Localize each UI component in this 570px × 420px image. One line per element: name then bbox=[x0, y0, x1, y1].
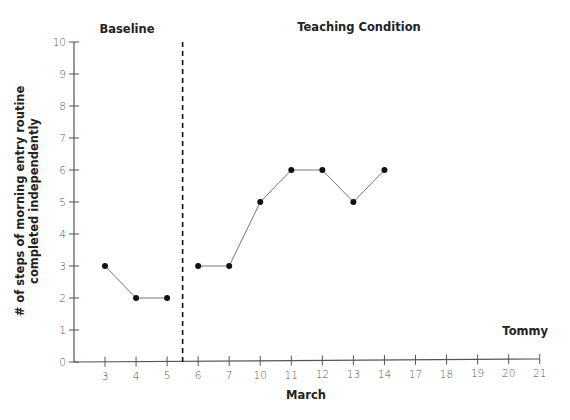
data-point bbox=[288, 167, 294, 173]
y-axis: 012345678910 bbox=[53, 36, 79, 368]
x-tick-label: 4 bbox=[133, 370, 140, 382]
x-axis: 3456710111213141718192021 bbox=[74, 354, 546, 382]
data-point bbox=[226, 263, 232, 269]
y-tick-label: 6 bbox=[59, 164, 66, 176]
x-tick-label: 7 bbox=[226, 369, 233, 381]
y-tick-label: 10 bbox=[53, 36, 66, 48]
teaching-phase-label: Teaching Condition bbox=[297, 20, 420, 34]
data-point bbox=[133, 295, 139, 301]
y-axis-title-line2: completed independently bbox=[27, 118, 41, 284]
x-tick-label: 13 bbox=[347, 368, 360, 380]
y-tick-label: 2 bbox=[59, 292, 66, 304]
y-tick-label: 9 bbox=[59, 68, 66, 80]
y-tick-label: 1 bbox=[59, 324, 66, 336]
single-subject-line-chart: 012345678910 3456710111213141718192021 B… bbox=[0, 0, 570, 420]
data-point bbox=[257, 199, 263, 205]
x-tick-label: 6 bbox=[195, 369, 202, 381]
x-tick-label: 19 bbox=[471, 367, 484, 379]
x-tick-label: 18 bbox=[440, 368, 453, 380]
data-series bbox=[102, 167, 387, 301]
x-tick-label: 3 bbox=[102, 370, 109, 382]
y-tick-label: 3 bbox=[59, 260, 66, 272]
y-tick-label: 8 bbox=[59, 100, 66, 112]
x-tick-label: 5 bbox=[164, 369, 171, 381]
data-point bbox=[102, 263, 108, 269]
x-tick-label: 10 bbox=[254, 369, 267, 381]
data-point bbox=[350, 199, 356, 205]
baseline-phase-label: Baseline bbox=[99, 22, 154, 36]
data-point bbox=[319, 167, 325, 173]
data-point bbox=[164, 295, 170, 301]
x-tick-label: 11 bbox=[285, 369, 298, 381]
data-point bbox=[381, 167, 387, 173]
x-tick-label: 14 bbox=[378, 368, 391, 380]
data-point bbox=[195, 263, 201, 269]
subject-name-label: Tommy bbox=[502, 324, 548, 338]
x-tick-label: 21 bbox=[533, 367, 546, 379]
x-tick-label: 17 bbox=[409, 368, 422, 380]
y-tick-label: 5 bbox=[59, 196, 66, 208]
x-axis-title: March bbox=[286, 388, 326, 402]
y-tick-label: 4 bbox=[59, 228, 66, 240]
y-axis-title-line1: # of steps of morning entry routine bbox=[13, 85, 27, 316]
y-tick-label: 0 bbox=[59, 356, 66, 368]
y-tick-label: 7 bbox=[59, 132, 66, 144]
x-tick-label: 12 bbox=[316, 368, 329, 380]
x-tick-label: 20 bbox=[502, 367, 515, 379]
